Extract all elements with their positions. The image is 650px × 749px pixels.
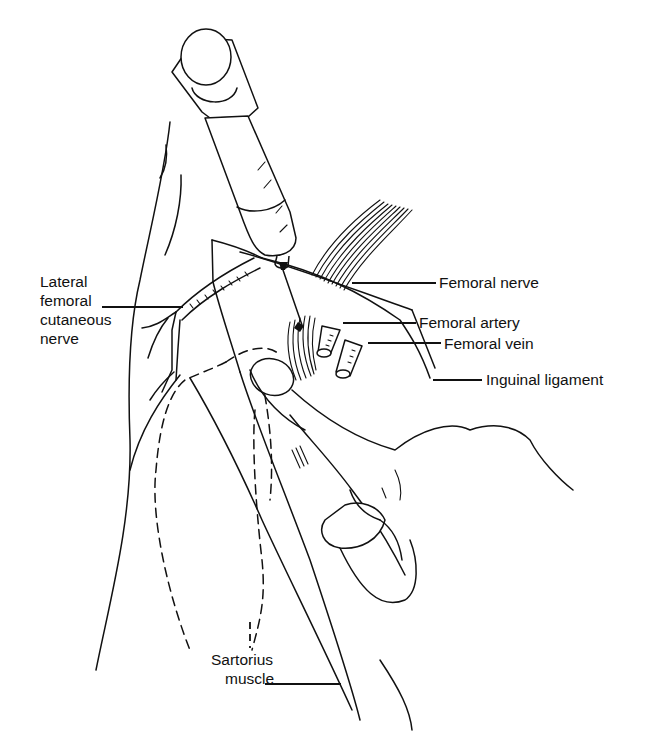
label-femoral-artery: Femoral artery — [419, 313, 520, 332]
label-line: Lateral — [40, 272, 112, 291]
label-line: cutaneous — [40, 310, 112, 329]
sartorius-dashed-outline — [155, 348, 280, 650]
label-line: nerve — [40, 329, 112, 348]
label-line: Sartorius — [211, 650, 274, 669]
femoral-vessels — [317, 326, 362, 378]
label-femoral-nerve: Femoral nerve — [439, 273, 539, 292]
label-line: femoral — [40, 291, 112, 310]
label-inguinal-ligament: Inguinal ligament — [486, 370, 603, 389]
skin-flap — [212, 240, 262, 372]
label-line: muscle — [211, 669, 274, 688]
palpating-hand — [245, 353, 573, 603]
label-lateral-femoral-cutaneous-nerve: Lateral femoral cutaneous nerve — [40, 272, 112, 348]
thigh-outline — [96, 122, 181, 670]
label-femoral-vein: Femoral vein — [444, 334, 534, 353]
label-sartorius-muscle: Sartorius muscle — [211, 650, 274, 688]
